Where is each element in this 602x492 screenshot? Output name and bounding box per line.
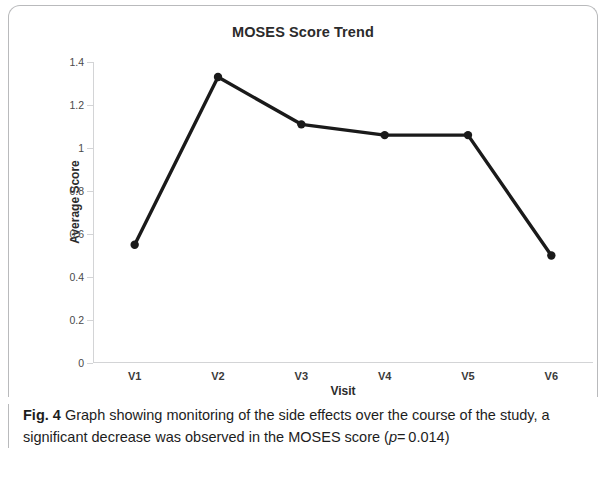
chart-title: MOSES Score Trend bbox=[9, 24, 597, 40]
data-point-marker bbox=[464, 131, 472, 139]
x-tick-label: V3 bbox=[295, 370, 308, 382]
x-tick-label: V6 bbox=[545, 370, 558, 382]
plot-area: 00.20.40.60.811.21.4 V1V2V3V4V5V6 bbox=[93, 62, 593, 363]
data-point-marker bbox=[547, 251, 555, 259]
figure-caption: Fig. 4 Graph showing monitoring of the s… bbox=[8, 404, 594, 448]
caption-text-part2: ) bbox=[445, 429, 450, 445]
x-axis-title: Visit bbox=[93, 384, 593, 398]
caption-p-symbol: p bbox=[389, 429, 397, 445]
x-tick-label: V2 bbox=[211, 370, 224, 382]
x-tick-label: V5 bbox=[461, 370, 474, 382]
figure-panel: MOSES Score Trend Average Score 00.20.40… bbox=[8, 5, 598, 397]
caption-body: Graph showing monitoring of the side eff… bbox=[23, 407, 550, 445]
y-tick-label: 0.8 bbox=[69, 185, 84, 197]
caption-p-value: = 0.014 bbox=[397, 429, 445, 445]
caption-label: Fig. 4 bbox=[23, 407, 61, 423]
data-point-marker bbox=[297, 120, 305, 128]
caption-text-part1: Graph showing monitoring of the side eff… bbox=[23, 407, 550, 445]
x-tick-label: V1 bbox=[128, 370, 141, 382]
x-tick-label: V4 bbox=[378, 370, 391, 382]
y-tick-label: 0 bbox=[78, 357, 84, 369]
data-point-marker bbox=[214, 73, 222, 81]
series-line bbox=[135, 77, 552, 255]
y-tick-label: 0.6 bbox=[69, 228, 84, 240]
data-point-marker bbox=[380, 131, 388, 139]
data-point-marker bbox=[130, 241, 138, 249]
y-tick-label: 1.2 bbox=[69, 99, 84, 111]
y-tick-label: 0.4 bbox=[69, 271, 84, 283]
y-tick-label: 1.4 bbox=[69, 56, 84, 68]
y-tick-label: 1 bbox=[78, 142, 84, 154]
y-tick-mark bbox=[87, 363, 93, 364]
y-tick-label: 0.2 bbox=[69, 314, 84, 326]
line-series bbox=[93, 62, 593, 363]
